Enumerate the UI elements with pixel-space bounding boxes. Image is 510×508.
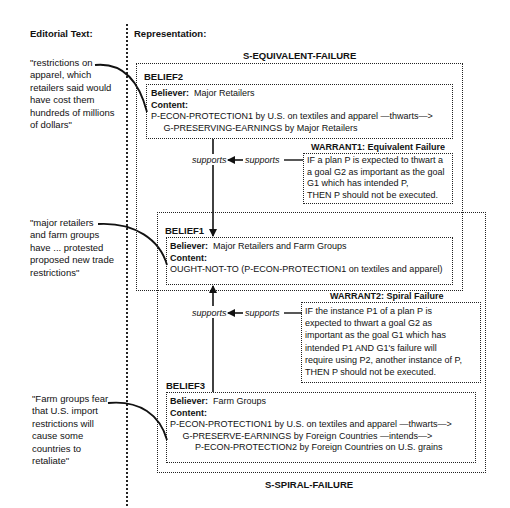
quote2-link-curve <box>98 224 167 265</box>
connector-lines <box>0 0 510 508</box>
quote3-link-curve <box>108 403 167 440</box>
quote1-link-curve <box>95 65 147 112</box>
